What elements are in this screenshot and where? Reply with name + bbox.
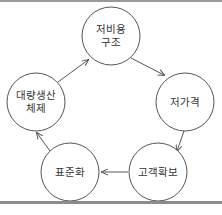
arrow-mass-production-to-low-cost <box>58 60 88 82</box>
node-label: 구조 <box>101 36 121 48</box>
bottom-border <box>0 201 222 204</box>
node-standardization: 표준화 <box>41 143 99 201</box>
arrow-low-price-to-customer <box>177 131 184 151</box>
node-low-cost-structure: 저비용 구조 <box>82 7 140 65</box>
node-label: 저가격 <box>170 96 200 108</box>
node-label: 저비용 <box>96 23 126 35</box>
arrow-low-cost-to-low-price <box>131 58 164 75</box>
node-label: 대량생산 <box>16 89 56 101</box>
node-customer-acquisition: 고객확보 <box>129 143 187 201</box>
node-mass-production-system: 대량생산 체제 <box>7 73 65 131</box>
cycle-diagram: 저비용 구조 저가격 고객확보 표준화 대량생산 체제 <box>0 0 222 215</box>
node-low-price: 저가격 <box>156 73 214 131</box>
node-label: 표준화 <box>55 166 85 178</box>
arrow-standardization-to-mass-production <box>37 133 50 151</box>
node-label: 고객확보 <box>138 166 178 178</box>
node-label: 체제 <box>26 102 46 114</box>
